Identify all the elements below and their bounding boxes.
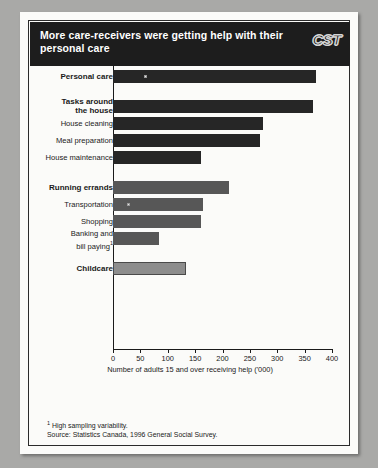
chart-header-banner: More care-receivers were getting help wi… [30,22,350,66]
source-line: Source: Statistics Canada, 1996 General … [47,430,337,439]
chart-bar [113,215,201,228]
bar-category-label: Transportation [0,201,113,210]
x-axis-tick-label: 150 [180,354,210,363]
footnote-text: High sampling variability. [52,422,128,429]
x-axis-tick [250,349,251,353]
chart-bar-row: Running errands [29,181,351,194]
chart-bar-row: Shopping [29,215,351,228]
chart-bar-row: House maintenance [29,151,351,164]
x-axis-tick [195,349,196,353]
x-axis-tick [305,349,306,353]
chart-plot-area: Number of adults 15 and over receiving h… [29,66,351,406]
x-axis-tick-label: 400 [317,354,347,363]
x-axis-tick-label: 250 [235,354,265,363]
chart-bar-row: Transportation [29,198,351,211]
bar-category-label: Tasks aroundthe house [0,98,113,115]
chart-bar [113,134,260,147]
x-axis-tick-label: 100 [153,354,183,363]
x-axis-tick [113,349,114,353]
chart-bar [113,100,313,113]
bar-category-label: Shopping [0,218,113,227]
x-axis-tick [168,349,169,353]
bar-category-label: House cleaning [0,120,113,129]
x-axis-tick-label: 0 [98,354,128,363]
footnote-line: 1 High sampling variability. [47,419,337,430]
cst-logo: CST [313,31,342,48]
chart-bar-row: Banking andbill paying1 [29,232,351,245]
chart-bar [113,181,229,194]
x-axis-tick-label: 300 [262,354,292,363]
bar-marker-dot [127,203,130,206]
bar-category-label: House maintenance [0,154,113,163]
bar-category-label: Childcare [0,265,113,274]
chart-title: More care-receivers were getting help wi… [40,29,290,55]
x-axis-tick [223,349,224,353]
bar-category-label: Banking andbill paying1 [0,230,113,251]
x-axis-tick-label: 350 [290,354,320,363]
x-axis-tick [332,349,333,353]
x-axis-tick-label: 200 [208,354,238,363]
chart-bar-row: Personal care [29,70,351,83]
footnote-marker: 1 [47,420,50,426]
bar-category-label: Running errands [0,184,113,193]
footnote-block: 1 High sampling variability. Source: Sta… [47,419,337,439]
chart-bar-row: Childcare [29,262,351,275]
x-axis-tick [277,349,278,353]
report-page: More care-receivers were getting help wi… [20,12,358,454]
bar-marker-dot [144,75,147,78]
chart-bar-row: Meal preparation [29,134,351,147]
bar-category-label: Personal care [0,73,113,82]
bar-category-label: Meal preparation [0,137,113,146]
chart-bar [113,151,201,164]
chart-bar-row: Tasks aroundthe house [29,100,351,113]
x-axis-title: Number of adults 15 and over receiving h… [29,365,351,374]
x-axis-tick [140,349,141,353]
chart-bar [113,262,186,275]
chart-bar [113,232,159,245]
x-axis-tick-label: 50 [125,354,155,363]
chart-bar [113,70,316,83]
page-border: More care-receivers were getting help wi… [28,20,350,446]
chart-bar-row: House cleaning [29,117,351,130]
chart-bar [113,117,263,130]
